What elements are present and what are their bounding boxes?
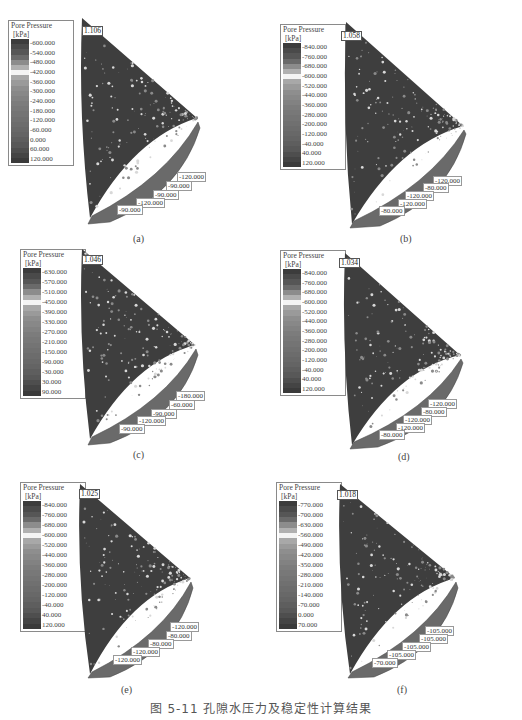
slope-plot: [270, 0, 522, 235]
slope-plot: [0, 478, 261, 713]
panel-f: Pore Pressure [kPa] -770.000-700.000-630…: [270, 478, 522, 713]
contour-label: -70.000: [372, 658, 398, 668]
contour-label: -120.000: [113, 655, 142, 665]
panel-e: Pore Pressure [kPa] -840.000-760.000-680…: [0, 478, 261, 713]
panel-a: Pore Pressure [kPa] -600.000-540.000-480…: [0, 0, 261, 235]
panel-b: Pore Pressure [kPa] -840.000-760.000-680…: [270, 0, 522, 235]
factor-of-safety-label: 1.018: [337, 490, 358, 500]
factor-of-safety-label: 1.106: [82, 26, 103, 36]
subfigure-label: (e): [121, 684, 132, 695]
contour-label: -80.000: [379, 206, 405, 216]
figure-caption: 图 5-11 孔隙水压力及稳定性计算结果: [0, 699, 522, 716]
subfigure-label: (c): [133, 449, 144, 460]
subfigure-label: (d): [398, 451, 410, 462]
slope-plot: [270, 243, 522, 478]
subfigure-label: (f): [397, 684, 407, 695]
slope-plot: [0, 0, 261, 235]
contour-label: -90.000: [119, 424, 145, 434]
contour-label: -80.000: [379, 430, 405, 440]
slope-plot: [0, 243, 261, 478]
panel-c: Pore Pressure [kPa] -630.000-570.000-510…: [0, 243, 261, 478]
factor-of-safety-label: 1.058: [341, 31, 362, 41]
factor-of-safety-label: 1.025: [79, 489, 100, 499]
factor-of-safety-label: 1.034: [339, 258, 360, 268]
factor-of-safety-label: 1.046: [82, 255, 103, 265]
slope-plot: [270, 478, 522, 713]
panel-d: Pore Pressure [kPa] -840.000-760.000-680…: [270, 243, 522, 478]
contour-label: -90.000: [117, 205, 143, 215]
